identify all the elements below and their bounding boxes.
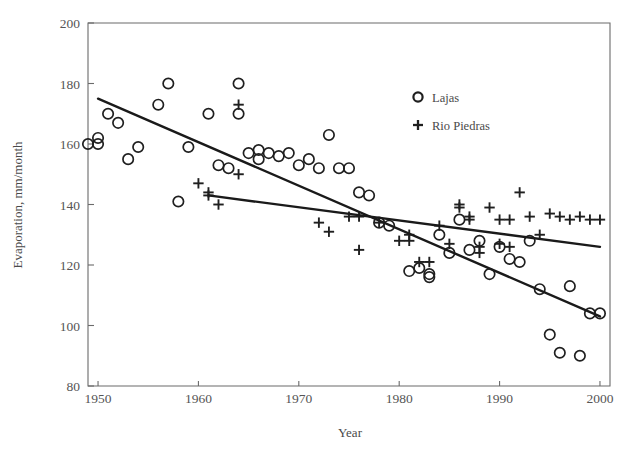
data-point-lajas: [103, 109, 113, 119]
data-point-lajas: [243, 148, 253, 158]
data-point-lajas: [464, 245, 474, 255]
data-point-lajas: [233, 78, 243, 88]
data-point-rio-piedras: [404, 236, 414, 246]
data-point-rio-piedras: [324, 227, 334, 237]
data-point-lajas: [434, 230, 444, 240]
x-tick-label: 1980: [386, 391, 413, 406]
data-point-rio-piedras: [575, 211, 585, 221]
x-tick-label: 1970: [285, 391, 312, 406]
data-point-rio-piedras: [233, 99, 243, 109]
x-axis-title: Year: [338, 425, 363, 440]
data-point-lajas: [93, 133, 103, 143]
data-point-lajas: [123, 154, 133, 164]
x-tick-label: 1950: [85, 391, 112, 406]
data-point-rio-piedras: [585, 214, 595, 224]
data-point-lajas: [314, 163, 324, 173]
data-point-lajas: [294, 160, 304, 170]
data-point-rio-piedras: [494, 239, 504, 249]
data-point-lajas: [133, 142, 143, 152]
data-point-rio-piedras: [514, 187, 524, 197]
data-point-rio-piedras: [394, 236, 404, 246]
data-point-lajas: [163, 78, 173, 88]
data-point-lajas: [324, 130, 334, 140]
data-point-rio-piedras: [545, 208, 555, 218]
plot-border: [88, 23, 610, 386]
chart-canvas: 1950196019701980199020008010012014016018…: [0, 0, 633, 449]
legend-label-lajas: Lajas: [432, 91, 459, 105]
data-point-rio-piedras: [474, 248, 484, 258]
data-point-rio-piedras: [354, 245, 364, 255]
chart-legend: LajasRio Piedras: [413, 91, 490, 133]
y-tick-label: 80: [67, 379, 81, 394]
axis-tick-labels: 1950196019701980199020008010012014016018…: [60, 16, 614, 406]
y-axis-title: Evaporation, mm/month: [10, 141, 25, 269]
data-point-lajas: [514, 257, 524, 267]
data-point-rio-piedras: [193, 178, 203, 188]
data-point-lajas: [545, 329, 555, 339]
data-point-rio-piedras: [424, 257, 434, 267]
evaporation-scatter-figure: 1950196019701980199020008010012014016018…: [0, 0, 633, 449]
data-point-lajas: [304, 154, 314, 164]
data-point-lajas: [344, 163, 354, 173]
y-tick-label: 100: [60, 319, 81, 334]
trend-lines: [98, 99, 600, 317]
data-point-lajas: [233, 109, 243, 119]
trend-line-lajas: [98, 99, 600, 317]
data-point-rio-piedras: [524, 211, 534, 221]
y-tick-label: 140: [60, 198, 81, 213]
data-point-lajas: [173, 196, 183, 206]
plot-frame: [88, 23, 610, 386]
data-point-rio-piedras: [504, 214, 514, 224]
data-point-lajas: [575, 351, 585, 361]
data-point-rio-piedras: [484, 202, 494, 212]
data-point-lajas: [153, 99, 163, 109]
y-tick-label: 200: [60, 16, 81, 31]
data-point-lajas: [364, 190, 374, 200]
y-tick-label: 160: [60, 137, 81, 152]
data-point-lajas: [504, 254, 514, 264]
x-tick-label: 1960: [185, 391, 212, 406]
data-point-lajas: [334, 163, 344, 173]
data-point-lajas: [284, 148, 294, 158]
data-point-rio-piedras: [555, 211, 565, 221]
data-point-lajas: [454, 214, 464, 224]
data-point-lajas: [404, 266, 414, 276]
data-point-lajas: [354, 187, 364, 197]
data-point-rio-piedras: [504, 242, 514, 252]
data-point-lajas: [274, 151, 284, 161]
circle-marker-icon: [413, 92, 422, 101]
data-point-rio-piedras: [494, 214, 504, 224]
data-point-lajas: [213, 160, 223, 170]
data-point-lajas: [183, 142, 193, 152]
x-tick-label: 1990: [486, 391, 513, 406]
data-point-rio-piedras: [595, 214, 605, 224]
data-series-markers: [83, 78, 605, 361]
legend-label-rio-piedras: Rio Piedras: [432, 119, 490, 133]
plus-marker-icon: [413, 120, 423, 130]
data-point-rio-piedras: [314, 217, 324, 227]
data-point-lajas: [565, 281, 575, 291]
data-point-rio-piedras: [233, 169, 243, 179]
x-tick-label: 2000: [586, 391, 613, 406]
data-point-rio-piedras: [213, 199, 223, 209]
data-point-rio-piedras: [565, 214, 575, 224]
trend-line-rio-piedras: [208, 195, 600, 246]
data-point-lajas: [113, 118, 123, 128]
y-tick-label: 120: [60, 258, 81, 273]
y-tick-label: 180: [60, 77, 81, 92]
data-point-lajas: [203, 109, 213, 119]
data-point-lajas: [555, 348, 565, 358]
data-point-lajas: [263, 148, 273, 158]
data-point-lajas: [223, 163, 233, 173]
data-point-rio-piedras: [444, 239, 454, 249]
